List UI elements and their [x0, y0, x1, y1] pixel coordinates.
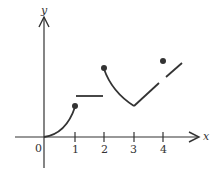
y-axis-label: y — [40, 4, 48, 17]
x-axis-label: x — [203, 130, 210, 143]
curve-0-to-1 — [44, 107, 75, 137]
isolated-dot-x4 — [160, 58, 166, 64]
x-tick-label-1: 1 — [72, 143, 79, 156]
origin-label: 0 — [35, 142, 42, 155]
graph-svg: y x 0 1 2 3 4 — [0, 0, 218, 178]
x-tick-label-3: 3 — [130, 143, 137, 156]
closed-dot-x1 — [72, 103, 78, 109]
curve-2-to-3 — [104, 69, 134, 106]
function-graph: y x 0 1 2 3 4 — [0, 0, 218, 178]
x-tick-label-2: 2 — [101, 143, 108, 156]
x-tick-label-4: 4 — [160, 143, 167, 156]
line-after-4 — [166, 63, 182, 77]
line-3-to-4 — [134, 83, 159, 106]
